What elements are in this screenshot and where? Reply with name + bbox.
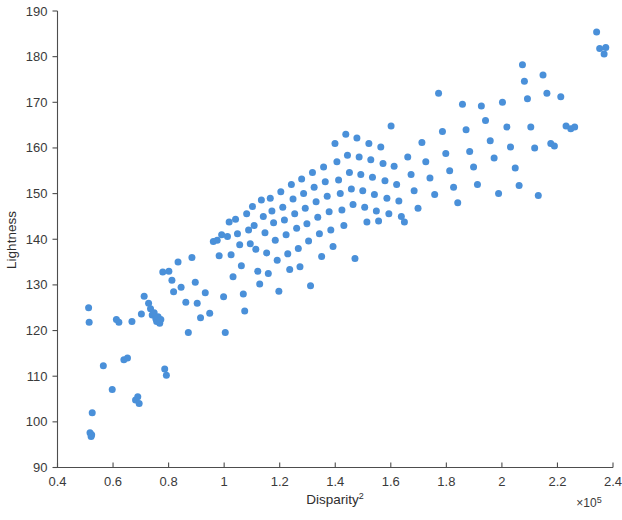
data-point	[249, 203, 256, 210]
data-point	[519, 61, 526, 68]
y-tick-label: 150	[26, 186, 48, 201]
data-point	[415, 205, 422, 212]
data-point	[109, 386, 116, 393]
data-point	[350, 201, 357, 208]
data-point	[170, 288, 177, 295]
data-point	[351, 255, 358, 262]
data-point	[293, 225, 300, 232]
data-point	[247, 240, 254, 247]
x-axis-multiplier: ×105	[576, 495, 601, 510]
y-tick-label: 120	[26, 323, 48, 338]
plot-canvas: 90100110120130140150160170180190 0.40.60…	[0, 0, 622, 520]
y-tick-label: 190	[26, 4, 48, 19]
data-point	[470, 164, 477, 171]
data-point	[524, 95, 531, 102]
data-point	[439, 128, 446, 135]
x-tick-label: 0.4	[48, 474, 66, 489]
data-point	[241, 307, 248, 314]
data-point	[313, 198, 320, 205]
data-point	[418, 139, 425, 146]
data-point	[188, 254, 195, 261]
data-point	[318, 253, 325, 260]
data-point	[507, 144, 514, 151]
x-axis-tick-labels: 0.40.60.811.21.41.61.822.22.4	[48, 474, 622, 489]
x-axis-multiplier-base: ×10	[576, 496, 597, 510]
data-point	[353, 134, 360, 141]
data-point	[391, 163, 398, 170]
data-point	[260, 213, 267, 220]
data-point	[136, 400, 143, 407]
y-tick-label: 110	[27, 369, 48, 384]
x-axis-ticks	[58, 463, 614, 468]
data-point	[593, 29, 600, 36]
data-point	[128, 318, 135, 325]
data-point	[326, 208, 333, 215]
data-point	[134, 393, 141, 400]
x-axis-title-base: Disparity	[306, 492, 359, 507]
y-tick-label: 130	[26, 277, 48, 292]
data-point	[331, 140, 338, 147]
data-point	[291, 210, 298, 217]
data-point	[346, 169, 353, 176]
data-point	[168, 277, 175, 284]
data-point	[234, 230, 241, 237]
data-point	[380, 160, 387, 167]
data-point	[333, 158, 340, 165]
data-point	[381, 177, 388, 184]
data-point	[224, 233, 231, 240]
y-axis-ticks	[53, 11, 58, 468]
data-point	[344, 152, 351, 159]
data-point	[258, 196, 265, 203]
data-point	[268, 207, 275, 214]
data-point	[236, 241, 243, 248]
data-point	[245, 227, 252, 234]
data-point	[305, 238, 312, 245]
data-point	[124, 354, 131, 361]
y-tick-label: 180	[26, 49, 48, 64]
data-point	[251, 222, 258, 229]
data-point	[431, 191, 438, 198]
data-point	[288, 181, 295, 188]
data-point	[194, 300, 201, 307]
data-point	[487, 137, 494, 144]
x-axis-multiplier-exponent: 5	[597, 495, 602, 505]
data-point	[157, 316, 164, 323]
data-point	[277, 188, 284, 195]
data-point	[491, 154, 498, 161]
data-point	[450, 184, 457, 191]
data-point	[365, 140, 372, 147]
data-point	[361, 204, 368, 211]
data-point	[377, 144, 384, 151]
x-tick-label: 1.2	[271, 474, 289, 489]
data-point-layer	[85, 29, 609, 440]
data-point	[309, 169, 316, 176]
x-tick-label: 2.2	[548, 474, 566, 489]
data-point	[88, 431, 95, 438]
data-point	[178, 284, 185, 291]
data-point	[596, 45, 603, 52]
data-point	[375, 217, 382, 224]
data-point	[243, 210, 250, 217]
data-point	[383, 195, 390, 202]
data-point	[232, 216, 239, 223]
data-point	[238, 262, 245, 269]
y-tick-label: 90	[33, 460, 47, 475]
data-point	[240, 291, 247, 298]
data-point	[442, 150, 449, 157]
data-point	[320, 164, 327, 171]
data-point	[302, 205, 309, 212]
data-point	[316, 230, 323, 237]
data-point	[165, 268, 172, 275]
scatter-plot-figure: 90100110120130140150160170180190 0.40.60…	[0, 0, 622, 520]
data-point	[404, 154, 411, 161]
data-point	[385, 210, 392, 217]
data-point	[474, 181, 481, 188]
data-point	[261, 229, 268, 236]
data-point	[335, 176, 342, 183]
data-point	[337, 190, 344, 197]
data-point	[314, 214, 321, 221]
data-point	[340, 222, 347, 229]
data-point	[540, 71, 547, 78]
data-point	[342, 131, 349, 138]
data-point	[159, 269, 166, 276]
